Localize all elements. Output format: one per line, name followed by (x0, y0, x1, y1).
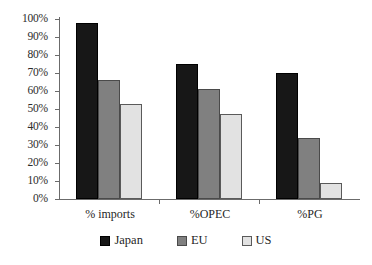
legend-swatch-eu-icon (177, 236, 187, 246)
y-tick-label-70: 70% (0, 67, 48, 79)
y-axis-labels: 100% 90% 80% 70% 60% 50% 40% 30% 20% 10%… (0, 0, 56, 265)
legend-item-us: US (242, 234, 272, 247)
bar-us-pg (320, 183, 342, 199)
bar-chart: 100% 90% 80% 70% 60% 50% 40% 30% 20% 10%… (0, 0, 372, 265)
y-tick-label-0: 0% (0, 193, 48, 205)
bar-us-imports (120, 104, 142, 199)
legend-swatch-japan-icon (100, 236, 110, 246)
y-tick-label-90: 90% (0, 31, 48, 43)
chart-legend: Japan EU US (0, 234, 372, 247)
y-tick-label-30: 30% (0, 139, 48, 151)
bar-japan-pg (276, 73, 298, 199)
y-tick-label-80: 80% (0, 49, 48, 61)
y-tick-label-10: 10% (0, 175, 48, 187)
legend-item-japan: Japan (100, 234, 142, 247)
category-label-opec: %OPEC (160, 207, 260, 221)
bar-japan-opec (176, 64, 198, 199)
plot-area (60, 19, 360, 199)
legend-item-eu: EU (177, 234, 208, 247)
category-separator-1 (159, 199, 160, 204)
legend-label-eu: EU (191, 234, 208, 247)
legend-label-us: US (256, 234, 272, 247)
category-label-pg: %PG (260, 207, 360, 221)
bar-eu-pg (298, 138, 320, 199)
bar-eu-opec (198, 89, 220, 199)
x-axis-line (59, 199, 360, 200)
category-separator-2 (259, 199, 260, 204)
legend-label-japan: Japan (114, 234, 142, 247)
y-tick-label-40: 40% (0, 121, 48, 133)
y-tick-label-50: 50% (0, 103, 48, 115)
bar-us-opec (220, 114, 242, 199)
y-tick-label-60: 60% (0, 85, 48, 97)
category-label-imports: % imports (60, 207, 160, 221)
bar-eu-imports (98, 80, 120, 199)
legend-swatch-us-icon (242, 236, 252, 246)
bar-japan-imports (76, 23, 98, 199)
y-tick-label-100: 100% (0, 13, 48, 25)
y-tick-label-20: 20% (0, 157, 48, 169)
